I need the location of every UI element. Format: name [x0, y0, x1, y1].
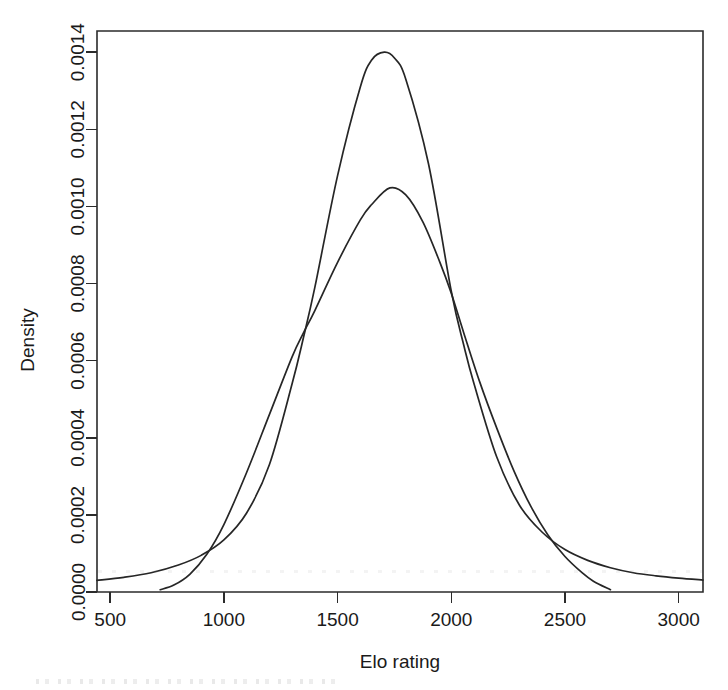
y-tick-label: 0.0004: [68, 408, 89, 467]
y-tick-label: 0.0014: [68, 23, 89, 82]
x-tick-label: 1000: [203, 609, 245, 630]
y-tick-label: 0.0010: [68, 177, 89, 235]
plot-canvas: 50010001500200025003000 0.00000.00020.00…: [0, 0, 728, 690]
page-scan-artifact: [36, 679, 336, 684]
y-tick-label: 0.0002: [68, 486, 89, 544]
x-tick-label: 1500: [316, 609, 358, 630]
y-axis-title: Density: [17, 308, 38, 372]
baseline-scan-artifact: [98, 570, 702, 573]
x-tick-label: 2500: [544, 609, 586, 630]
x-tick-label: 500: [94, 609, 126, 630]
y-tick-label: 0.0006: [68, 332, 89, 390]
x-tick-label: 3000: [658, 609, 700, 630]
y-tick-label: 0.0000: [68, 563, 89, 621]
density-plot-figure: 50010001500200025003000 0.00000.00020.00…: [0, 0, 728, 690]
plot-background: [0, 0, 728, 690]
x-tick-label: 2000: [430, 609, 472, 630]
y-tick-label: 0.0012: [68, 100, 89, 158]
y-tick-label: 0.0008: [68, 254, 89, 312]
x-axis-title: Elo rating: [360, 651, 440, 672]
